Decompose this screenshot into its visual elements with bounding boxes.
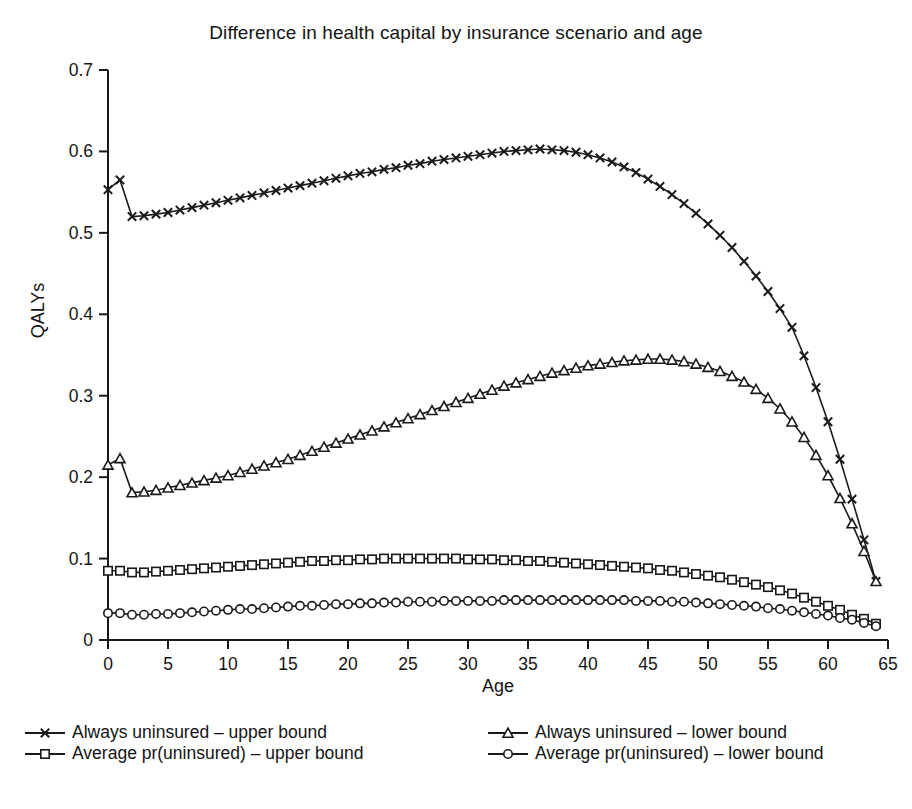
marker-x-cross (848, 495, 856, 503)
marker-circle (500, 596, 508, 604)
marker-square (764, 583, 772, 591)
marker-circle (776, 605, 784, 613)
marker-square (368, 555, 376, 563)
marker-triangle (415, 410, 425, 419)
marker-square (380, 554, 388, 562)
marker-circle (428, 598, 436, 606)
legend-label: Always uninsured – upper bound (72, 722, 327, 743)
marker-circle (644, 597, 652, 605)
marker-triangle (295, 450, 305, 459)
x-tick-label: 10 (218, 654, 238, 674)
marker-circle (824, 611, 832, 619)
marker-x-cross (656, 182, 664, 190)
marker-x-cross (608, 158, 616, 166)
marker-circle (248, 605, 256, 613)
marker-circle (392, 598, 400, 606)
marker-circle (488, 597, 496, 605)
marker-square (812, 598, 820, 606)
marker-circle (728, 601, 736, 609)
marker-x-cross (740, 257, 748, 265)
marker-circle (836, 614, 844, 622)
marker-circle (380, 598, 388, 606)
x-tick-label: 5 (163, 654, 173, 674)
marker-circle (452, 597, 460, 605)
marker-square (224, 563, 232, 571)
marker-circle (332, 600, 340, 608)
legend-item-average-pr-uninsured-upper[interactable]: Average pr(uninsured) – upper bound (24, 743, 453, 764)
legend-key-group (25, 728, 65, 736)
chart-legend: Always uninsured – upper bound Average p… (24, 722, 892, 764)
marker-triangle (355, 430, 365, 439)
marker-square (116, 567, 124, 575)
marker-triangle (823, 471, 833, 480)
marker-x-cross (812, 383, 820, 391)
marker-square (728, 576, 736, 584)
marker-triangle (391, 418, 401, 427)
marker-x-cross (644, 175, 652, 183)
marker-square (692, 570, 700, 578)
marker-triangle (487, 385, 497, 394)
marker-triangle (427, 406, 437, 415)
x-tick-label: 45 (638, 654, 657, 674)
marker-x-cross (632, 168, 640, 176)
marker-square (188, 565, 196, 573)
marker-circle (464, 597, 472, 605)
marker-x-cross (764, 287, 772, 295)
marker-square (500, 556, 508, 564)
legend-item-average-pr-uninsured-lower[interactable]: Average pr(uninsured) – lower bound (463, 743, 892, 764)
marker-square (284, 558, 292, 566)
marker-square (824, 602, 832, 610)
y-tick-label: 0.5 (69, 223, 93, 243)
marker-circle (596, 596, 604, 604)
y-tick-label: 0.7 (69, 60, 93, 80)
x-tick-label: 0 (103, 654, 113, 674)
marker-square (41, 749, 49, 757)
marker-circle (716, 600, 724, 608)
marker-square (608, 562, 616, 570)
marker-square (752, 580, 760, 588)
marker-x-cross (728, 243, 736, 251)
marker-circle (272, 603, 280, 611)
marker-circle (512, 596, 520, 604)
marker-square (524, 557, 532, 565)
x-tick-label: 50 (698, 654, 718, 674)
marker-square (452, 554, 460, 562)
series-1 (103, 354, 881, 585)
marker-circle (440, 597, 448, 605)
marker-circle (116, 609, 124, 617)
marker-x-cross (836, 455, 844, 463)
legend-item-always-uninsured-upper[interactable]: Always uninsured – upper bound (24, 722, 453, 743)
marker-circle (740, 602, 748, 610)
marker-circle (680, 598, 688, 606)
marker-square (620, 563, 628, 571)
marker-square (776, 586, 784, 594)
x-tick-label: 35 (518, 654, 537, 674)
marker-square (488, 555, 496, 563)
marker-square (668, 567, 676, 575)
marker-circle (152, 610, 160, 618)
marker-circle (560, 596, 568, 604)
legend-item-always-uninsured-lower[interactable]: Always uninsured – lower bound (463, 722, 892, 743)
marker-circle (752, 602, 760, 610)
marker-triangle (451, 397, 461, 406)
x-tick-label: 30 (458, 654, 478, 674)
marker-x-cross (668, 190, 676, 198)
legend-key-group (488, 728, 528, 737)
marker-circle (296, 602, 304, 610)
marker-square (152, 567, 160, 575)
marker-square (632, 563, 640, 571)
marker-square (236, 562, 244, 570)
y-tick-label: 0.1 (69, 549, 93, 569)
marker-square (428, 554, 436, 562)
square-icon (24, 746, 66, 762)
marker-circle (548, 596, 556, 604)
marker-square (596, 561, 604, 569)
marker-triangle (379, 422, 389, 431)
marker-x-cross (692, 209, 700, 217)
marker-square (140, 568, 148, 576)
x-tick-label: 15 (278, 654, 297, 674)
marker-circle (812, 610, 820, 618)
marker-triangle (319, 442, 329, 451)
marker-circle (860, 619, 868, 627)
marker-square (308, 557, 316, 565)
